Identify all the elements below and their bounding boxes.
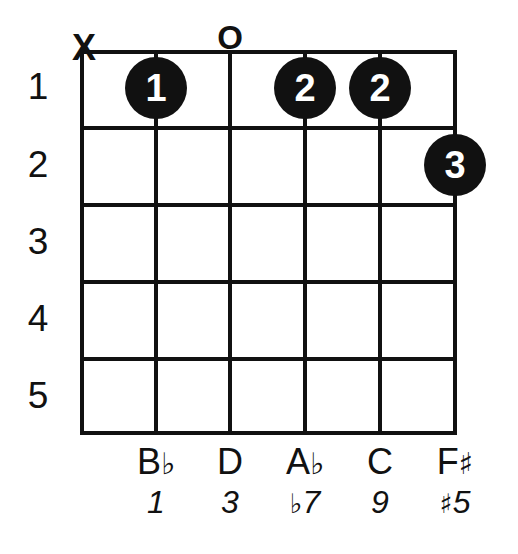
string-line-6 bbox=[453, 50, 457, 435]
finger-dot-string6-fret2: 3 bbox=[424, 134, 486, 196]
fret-line-4 bbox=[80, 357, 457, 361]
fret-number-2: 2 bbox=[12, 146, 64, 183]
note-accidental-string6: ♯ bbox=[459, 446, 474, 481]
note-label-string6: F♯ bbox=[400, 443, 510, 481]
note-letter-string5: C bbox=[367, 441, 393, 482]
finger-dot-string4-fret1: 2 bbox=[274, 57, 336, 119]
fret-line-3 bbox=[80, 280, 457, 284]
finger-dot-string2-fret1: 1 bbox=[125, 57, 187, 119]
muted-string-marker-1: X bbox=[67, 31, 101, 65]
interval-degree-string2: 1 bbox=[147, 484, 165, 520]
interval-degree-string3: 3 bbox=[221, 484, 239, 520]
interval-prefix-string6: ♯ bbox=[440, 488, 453, 519]
interval-prefix-string4: ♭ bbox=[290, 488, 303, 519]
fret-line-1 bbox=[80, 126, 457, 130]
fret-number-5: 5 bbox=[12, 377, 64, 414]
interval-degree-string5: 9 bbox=[371, 484, 389, 520]
fret-line-5 bbox=[80, 431, 457, 435]
nut-line bbox=[80, 50, 457, 54]
note-letter-string3: D bbox=[217, 441, 243, 482]
fret-number-4: 4 bbox=[12, 300, 64, 337]
chord-diagram-sheet: 1 2 3 4 5 X O 1 2 2 3 B♭ D A♭ C F♯ bbox=[0, 0, 518, 554]
interval-degree-string4: 7 bbox=[302, 484, 320, 520]
finger-dot-string5-fret1: 2 bbox=[349, 57, 411, 119]
fret-number-3: 3 bbox=[12, 223, 64, 260]
interval-degree-string6: 5 bbox=[453, 484, 471, 520]
note-accidental-string2: ♭ bbox=[161, 446, 175, 481]
string-line-3 bbox=[228, 50, 232, 435]
note-letter-string4: A bbox=[286, 441, 310, 482]
string-line-1 bbox=[80, 50, 84, 435]
open-string-marker-3: O bbox=[213, 21, 247, 55]
note-accidental-string4: ♭ bbox=[310, 446, 324, 481]
note-letter-string6: F bbox=[437, 441, 459, 482]
interval-label-string6: ♯5 bbox=[400, 486, 510, 520]
note-letter-string2: B bbox=[137, 441, 161, 482]
fret-number-1: 1 bbox=[12, 68, 64, 105]
fret-line-2 bbox=[80, 203, 457, 207]
